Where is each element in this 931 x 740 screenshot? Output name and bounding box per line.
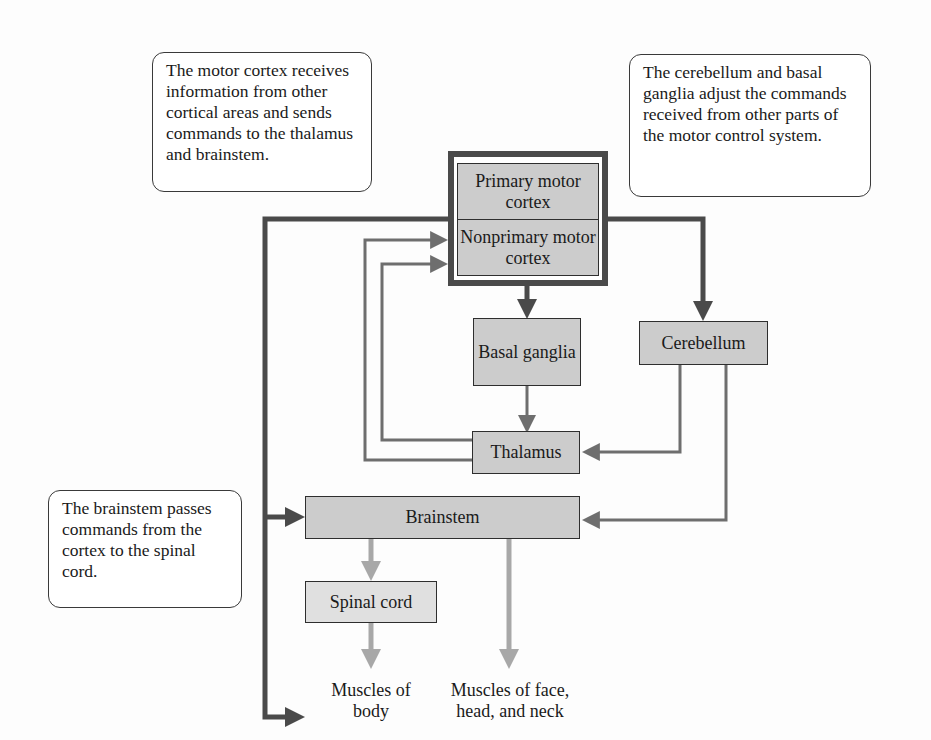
node-thalamus: Thalamus [472, 431, 580, 474]
node-primary-motor-cortex: Primary motor cortex [457, 163, 599, 220]
node-basal-ganglia: Basal ganglia [473, 318, 581, 386]
output-muscles-body: Muscles of body [323, 680, 419, 722]
node-spinal-cord: Spinal cord [305, 581, 437, 623]
node-nonprimary-motor-cortex: Nonprimary motor cortex [457, 219, 599, 276]
node-brainstem: Brainstem [305, 496, 580, 539]
note-motor-cortex-text: The motor cortex receives information fr… [166, 60, 353, 164]
note-motor-cortex: The motor cortex receives information fr… [152, 52, 372, 192]
note-brainstem: The brainstem passes commands from the c… [48, 490, 242, 608]
node-cerebellum: Cerebellum [639, 321, 768, 365]
note-brainstem-text: The brainstem passes commands from the c… [62, 498, 212, 581]
note-cerebellum-text: The cerebellum and basal ganglia adjust … [643, 62, 847, 145]
output-muscles-face: Muscles of face, head, and neck [430, 680, 590, 722]
note-cerebellum-basal-ganglia: The cerebellum and basal ganglia adjust … [629, 54, 871, 197]
